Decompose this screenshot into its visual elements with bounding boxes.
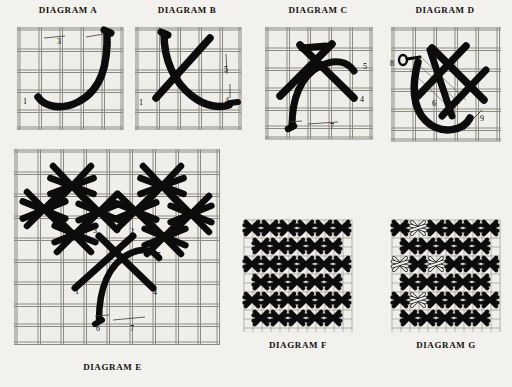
panel-diagram-g: DIAGRAM G — [388, 218, 504, 363]
panel-title-c: DIAGRAM C — [256, 5, 380, 15]
panel-diagram-f: DIAGRAM F — [240, 218, 356, 363]
panel-title-f: DIAGRAM F — [240, 340, 356, 350]
panel-diagram-c: DIAGRAM C — [256, 5, 380, 145]
canvas-grid-b — [134, 26, 242, 131]
panel-title-a: DIAGRAM A — [8, 5, 128, 15]
panel-title-d: DIAGRAM D — [382, 5, 508, 15]
canvas-grid-a — [16, 26, 124, 131]
diagram-sheet: DIAGRAM A — [0, 0, 512, 387]
canvas-grid-d — [390, 26, 502, 142]
panel-diagram-a: DIAGRAM A — [8, 5, 128, 140]
panel-title-g: DIAGRAM G — [388, 340, 504, 350]
panel-title-e: DIAGRAM E — [5, 362, 220, 372]
panel-title-b: DIAGRAM B — [126, 5, 248, 15]
panel-diagram-d: DIAGRAM D — [382, 5, 508, 147]
panel-diagram-e: 1 2 3 4 5 6 7 DIAGRAM E — [5, 148, 237, 384]
canvas-grid-c — [264, 26, 374, 140]
canvas-grid-e — [13, 148, 221, 346]
canvas-grid-g — [390, 218, 502, 334]
canvas-grid-f — [242, 218, 354, 334]
panel-diagram-b: DIAGRAM B — [126, 5, 248, 140]
